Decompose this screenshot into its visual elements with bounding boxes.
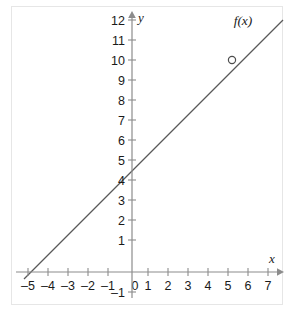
function-line-fx [24, 20, 283, 279]
coordinate-plane: –5 –4 –3 –2 –1 0 1 2 3 4 5 6 7 x [0, 0, 294, 323]
x-tick-label-3: 3 [185, 279, 192, 293]
chart-figure: –5 –4 –3 –2 –1 0 1 2 3 4 5 6 7 x [0, 0, 294, 323]
y-tick-label-4: 4 [118, 174, 125, 188]
y-tick-label-8: 8 [118, 94, 125, 108]
y-tick-label-2: 2 [118, 214, 125, 228]
x-tick-label-1: 1 [145, 279, 152, 293]
y-axis-group: 12 11 10 9 8 7 6 5 4 3 2 1 –1 y [111, 10, 144, 300]
x-axis-group: –5 –4 –3 –2 –1 0 1 2 3 4 5 6 7 x [16, 251, 284, 293]
x-tick-label--2: –2 [81, 279, 95, 293]
y-axis-arrowhead [128, 11, 136, 18]
y-tick-label-7: 7 [118, 114, 125, 128]
y-tick-label-3: 3 [118, 194, 125, 208]
y-tick-label-5: 5 [118, 154, 125, 168]
x-tick-label-7: 7 [265, 279, 272, 293]
x-axis-label: x [268, 251, 275, 266]
x-tick-label-4: 4 [205, 279, 212, 293]
x-tick-label-5: 5 [225, 279, 232, 293]
y-tick-label-11: 11 [112, 34, 125, 48]
x-tick-label-6: 6 [245, 279, 252, 293]
x-tick-label--4: –4 [41, 279, 55, 293]
open-circle-point [228, 56, 235, 63]
y-tick-label-12: 12 [111, 14, 125, 28]
x-tick-label-2: 2 [165, 279, 172, 293]
y-tick-label-10: 10 [111, 54, 125, 68]
x-tick-label--3: –3 [61, 279, 75, 293]
x-axis-arrowhead [277, 268, 284, 276]
y-tick-label--1: –1 [111, 286, 125, 300]
function-label: f(x) [234, 13, 253, 28]
y-axis-label: y [136, 10, 144, 25]
y-tick-label-6: 6 [118, 134, 125, 148]
y-tick-label-1: 1 [118, 234, 125, 248]
y-tick-label-9: 9 [118, 74, 125, 88]
x-tick-label--5: –5 [21, 279, 35, 293]
function-line-group [24, 20, 283, 279]
